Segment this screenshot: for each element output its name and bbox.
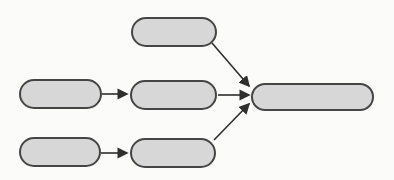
node-bottom-left [20, 138, 100, 166]
node-mid-left [20, 80, 101, 108]
node-mid-center [131, 81, 216, 109]
flowchart-svg [0, 0, 394, 180]
node-bottom-center [131, 139, 215, 167]
edge-bottom-center-to-right [214, 104, 249, 140]
diagram-canvas [0, 0, 394, 180]
node-top-center [132, 18, 216, 46]
node-right [252, 84, 373, 110]
edge-top-center-to-right [212, 43, 249, 86]
